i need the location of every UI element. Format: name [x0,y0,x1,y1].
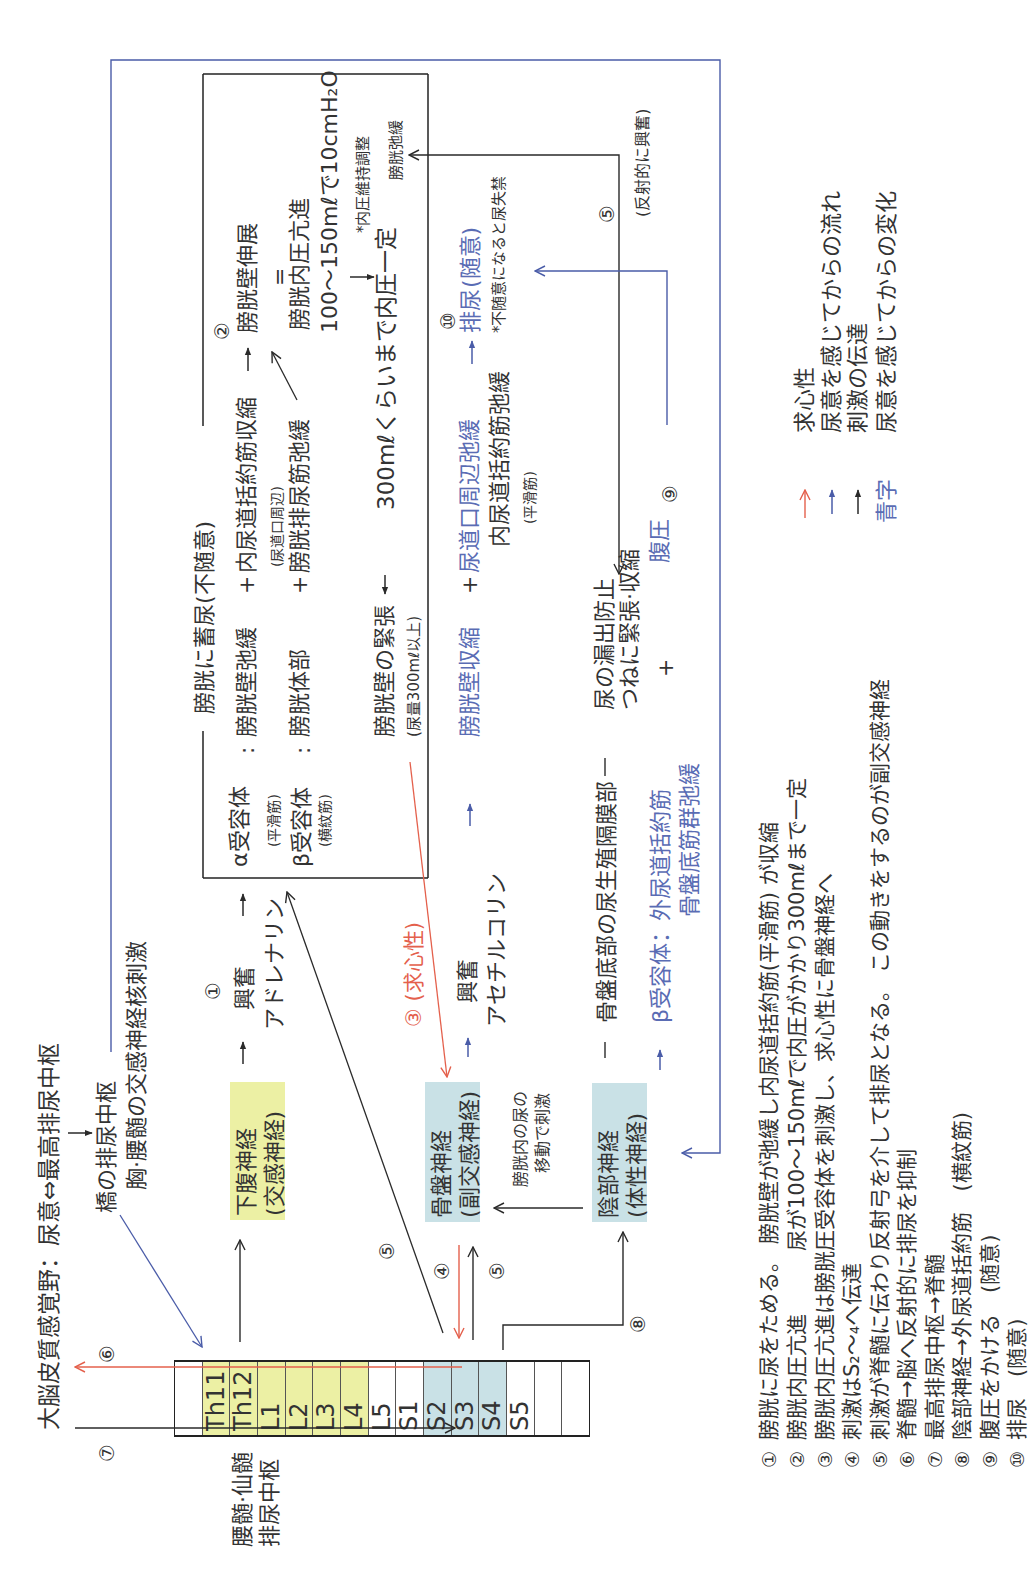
legend-label-flow: 尿意を感じてからの流れ [821,191,843,433]
bladder-pressure-rise: 膀胱内圧亢進 [289,198,311,330]
pons-sub-label: 胸·腰髄の交感神経核刺激 [126,941,148,1190]
abdominal-pressure-to-void-arrow [535,271,667,425]
note-number: ③ [816,1440,835,1468]
note-number: ⑤ [871,1440,890,1468]
note-text: 膀胱内圧亢進は膀胱圧受容体を刺激し、求心性に骨盤神経へ [813,873,837,1440]
note-item: ⑧陰部神経→外尿道括約筋 (横紋筋) [952,1112,973,1468]
internal-sphincter-area: (尿道口周辺) [270,486,284,567]
note-item: ③膀胱内圧亢進は膀胱圧受容体を刺激し、求心性に骨盤神経へ [815,873,836,1468]
bladder-wall-tension: 膀胱壁の緊張 [374,605,396,737]
adrenaline-label: アドレナリン [264,898,286,1030]
bladder-wall-stretch: 膀胱壁伸展 [237,223,259,333]
note-item: ⑥脊髄→脳へ反射的に排尿を抑制 [897,1149,918,1468]
note-item: ⑤刺激が脊髄に伝わり反射弓を介して排尿となる。 この動きをするのが副交感神経 [870,679,891,1468]
legend-label-change: 尿意を感じてからの変化 [876,191,898,433]
pressure-maintain-note: *内圧維持調整 [356,136,371,234]
marker-5: ⑤ [597,205,617,223]
note-text: 陰部神経→外尿道括約筋 (横紋筋) [950,1112,974,1440]
plus-sign: + [655,659,677,677]
pons-to-th11-arrow [120,1215,202,1347]
alpha-receptor: α受容体 [229,786,251,867]
reflex-5-leak-to-relax-arrow [409,155,619,574]
note-item: ⑩排尿 (随意) [1007,1319,1028,1468]
spinal-center-label: 排尿中枢 [259,1459,281,1547]
note-text: 排尿 (随意) [1005,1319,1029,1440]
note-number: ⑦ [926,1440,945,1468]
note-number: ⑥ [898,1440,917,1468]
acetylcholine-label: アセチルコリン [486,873,508,1027]
bladder-wall-relax: 膀胱壁弛緩 [236,627,258,737]
parasympathetic-excite: 興奮 [457,959,479,1003]
bladder-relax: 膀胱弛緩 [389,120,404,180]
marker-7: ⑦ [97,1444,117,1462]
plus-sign: + [236,576,258,594]
note-number: ① [760,1440,779,1468]
note-item: ⑨腹圧をかける (随意) [980,1235,1001,1468]
colon: : [236,747,258,754]
note-text: 刺激が脊髄に伝わり反射弓を介して排尿となる。 この動きをするのが副交感神経 [868,679,892,1440]
note-item: ②膀胱内圧亢進 尿が100〜150mℓで内圧がかかり300mℓまで一定 [787,778,808,1468]
marker-5: ⑤ [377,1242,397,1260]
marker-10: ⑩ [438,312,458,330]
stimulus-note: 移動で刺激 [535,1093,551,1173]
leak-prevention: 尿の漏出防止 [594,578,616,710]
internal-sphincter-type: (平滑筋) [523,471,537,524]
note-text: 腹圧をかける (随意) [978,1235,1002,1440]
internal-sphincter-contract: 内尿道括約筋収縮 [236,397,258,573]
bladder-pressure-value: 100〜150mℓで10cmH₂O [319,70,341,333]
note-item: ④刺激はS₂〜₄へ伝達 [842,1263,863,1468]
note-number: ⑧ [953,1440,972,1468]
constant-pressure: 300mℓくらいまで内圧一定 [375,227,398,510]
cortex-label: 大脳皮質感覚野：尿意⇔最高排尿中枢 [38,1043,61,1430]
marker-5: ⑤ [487,1262,507,1280]
note-text: 脊髄→脳へ反射的に排尿を抑制 [895,1149,919,1440]
marker-4: ④ [432,1262,452,1280]
abdominal-pressure: 腹圧 [649,519,671,563]
pons-label: 橋の排尿中枢 [96,1081,118,1213]
note-item: ①膀胱に尿をためる。 膀胱壁が弛緩し内尿道括約筋(平滑筋) が収縮 [759,822,780,1468]
incontinence-note: *不随意になると尿失禁 [492,176,507,334]
note-number: ② [788,1440,807,1468]
stimulus-note: 膀胱内の尿の [513,1091,529,1187]
s4-to-pudendal-8-arrow [503,1232,623,1350]
afferent-3-label: ③ (求心性) [404,922,425,1027]
note-number: ⑨ [981,1440,1000,1468]
detrusor-to-stretch-arrow [272,352,297,400]
note-item: ⑦最高排尿中枢→脊髄 [925,1254,946,1468]
bladder-body: 膀胱体部 [289,649,311,737]
note-number: ⑩ [1008,1440,1027,1468]
legend-label-transmission: 刺激の伝達 [847,323,869,433]
reflex-excite-note: (反射的に興奮) [635,109,651,217]
sympathetic-excite: 興奮 [234,966,256,1010]
pelvic-floor-region: 骨盤底部の尿生殖隔膜部 [596,781,618,1023]
spinal-center-label: 腰髄·仙髄 [232,1452,254,1547]
beta-external-sphincter: β受容体：外尿道括約筋 [650,789,672,1023]
note-text: 膀胱に尿をためる。 膀胱壁が弛緩し内尿道括約筋(平滑筋) が収縮 [757,822,781,1440]
note-text: 膀胱内圧亢進 尿が100〜150mℓで内圧がかかり300mℓまで一定 [785,778,809,1440]
urine-volume-note: (尿量300mℓ以上) [407,616,422,737]
note-text: 最高排尿中枢→脊髄 [923,1254,947,1440]
detrusor-relax: 膀胱排尿筋弛緩 [289,419,311,573]
legend-label-afferent: 求心性 [794,367,816,433]
legend-blue-text-swatch: 青字 [876,479,898,523]
alpha-receptor-type: (平滑筋) [267,794,281,847]
marker-2: ② [212,322,232,340]
storage-box-title: 膀胱に蓄尿(不随意) [194,517,216,718]
voiding-label: 排尿 [460,289,482,333]
note-number: ④ [843,1440,862,1468]
colon: : [292,747,314,754]
beta-receptor: β受容体 [291,787,313,867]
marker-1: ① [203,982,223,1000]
pelvic-floor-relax: 骨盤底筋群弛緩 [679,763,701,917]
plus-sign: + [289,576,311,594]
voluntary-label: (随意) [460,227,482,288]
bladder-wall-contract: 膀胱壁収縮 [459,627,481,737]
marker-8: ⑧ [628,1315,648,1333]
marker-9: ⑨ [660,485,680,503]
note-text: 刺激はS₂〜₄へ伝達 [840,1263,864,1440]
internal-sphincter-relax: 内尿道括約筋弛緩 [489,371,511,547]
beta-receptor-type: (横紋筋) [318,794,332,847]
plus-sign: + [459,576,481,594]
constant-tension: つねに緊張·収縮 [619,549,641,710]
